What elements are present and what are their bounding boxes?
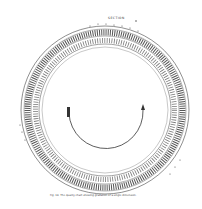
dial-rings bbox=[21, 26, 189, 194]
arrow-tail-icon bbox=[67, 107, 70, 117]
center-arrow bbox=[67, 104, 145, 149]
arrow-head-icon bbox=[141, 104, 145, 110]
figure-caption: Fig. 18. The quality chart showing grada… bbox=[50, 194, 170, 197]
dial-tick-marks bbox=[28, 33, 183, 188]
circular-dial-diagram bbox=[0, 0, 202, 209]
